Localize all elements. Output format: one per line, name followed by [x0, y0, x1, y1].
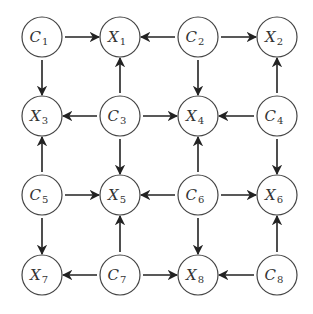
edges-layer: [42, 37, 277, 275]
node-c7: C7: [100, 255, 140, 295]
node-x2: X2: [257, 17, 297, 57]
node-c2: C2: [178, 17, 218, 57]
node-x6: X6: [257, 175, 297, 215]
node-x4: X4: [178, 96, 218, 136]
node-x3: X3: [22, 96, 62, 136]
node-c3: C3: [100, 96, 140, 136]
node-x1: X1: [100, 17, 140, 57]
node-x5: X5: [100, 175, 140, 215]
node-c4: C4: [257, 96, 297, 136]
nodes-layer: C1X1C2X2X3C3X4C4C5X5C6X6X7C7X8C8: [22, 17, 297, 295]
node-c1: C1: [22, 17, 62, 57]
node-c5: C5: [22, 175, 62, 215]
node-x7: X7: [22, 255, 62, 295]
graph-canvas: C1X1C2X2X3C3X4C4C5X5C6X6X7C7X8C8: [0, 0, 313, 314]
node-c6: C6: [178, 175, 218, 215]
node-c8: C8: [257, 255, 297, 295]
node-x8: X8: [178, 255, 218, 295]
